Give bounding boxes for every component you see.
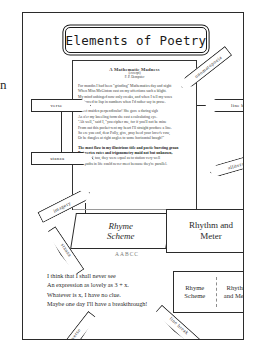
- page-title-text: Elements of Poetry: [66, 33, 207, 48]
- rhythm-meter-line-2: Meter: [189, 231, 233, 242]
- second-poem: I think that I shall never see An expres…: [47, 271, 147, 308]
- rhyme-scheme-code: AABCC: [97, 251, 157, 257]
- rhythm-meter-line-1: Rhythm and: [189, 220, 233, 231]
- worksheet-page: Elements of Poetry A Mathematic Madness …: [22, 12, 244, 340]
- rhyme-scheme-box[interactable]: Rhyme Scheme: [70, 213, 172, 249]
- callout-stanza[interactable]: stanza: [31, 152, 93, 165]
- poem-header: A Mathematic Madness (excerpt) F. P. Dem…: [73, 61, 196, 80]
- callout-verse[interactable]: verse: [31, 99, 91, 112]
- bottom-rhythm-line-1: Rhythm: [224, 284, 244, 292]
- callout-stanza-label: stanza: [50, 156, 64, 161]
- callout-alliteration[interactable]: alliteration: [208, 152, 244, 179]
- poem-line: I'm forced to lisp in numbers when I'd r…: [78, 100, 196, 105]
- leader-line-verse-v: [61, 105, 62, 153]
- callout-alliteration-label: alliteration: [227, 158, 244, 170]
- second-poem-line: An expression as lovely as 3 + x.: [47, 280, 147, 289]
- rhythm-meter-box-label: Rhythm and Meter: [189, 220, 233, 242]
- poem-line: Or he dangles at right angles to some ho…: [78, 136, 196, 141]
- bottom-rhyme-line-1: Rhyme: [184, 284, 205, 292]
- rhythm-meter-box[interactable]: Rhythm and Meter: [166, 209, 244, 253]
- callout-verse-label: verse: [50, 103, 62, 108]
- callout-verse-bottom[interactable]: verse: [56, 311, 97, 340]
- bottom-comparison-box[interactable]: Rhyme Scheme Rhythm and Meter: [173, 271, 244, 313]
- poem-stanza-1: For months I had been "grinding" Mathema…: [78, 84, 196, 106]
- bottom-rhythm-meter-cell[interactable]: Rhythm and Meter: [217, 272, 245, 312]
- poem-stanza-2: Sweet maiden perpendicular! She gave a d…: [78, 109, 196, 141]
- rhyme-scheme-line-1: Rhyme: [107, 221, 134, 231]
- second-poem-line: I think that I shall never see: [47, 271, 147, 280]
- bottom-rhythm-line-2: and Meter: [224, 292, 244, 300]
- callout-imagery-label: imagery: [52, 200, 71, 213]
- rhyme-scheme-box-label: Rhyme Scheme: [107, 221, 134, 242]
- poem-stanza-3: The most flaw in my illustrious title an…: [78, 146, 196, 168]
- rhyme-scheme-line-2: Scheme: [107, 231, 134, 241]
- poem-line: Our paths in life could never meet becau…: [78, 162, 196, 167]
- poem-author: F. P. Dempster: [73, 76, 196, 80]
- page-title: Elements of Poetry: [65, 27, 207, 53]
- leader-line-imagery: [85, 203, 86, 213]
- poem-frame: A Mathematic Madness (excerpt) F. P. Dem…: [72, 60, 197, 210]
- bottom-rhyme-scheme-cell[interactable]: Rhyme Scheme: [174, 272, 216, 312]
- bottom-rhyme-line-2: Scheme: [184, 292, 205, 300]
- callout-line-break[interactable]: line break: [205, 99, 244, 112]
- callout-line-break-bottom-label: line break: [169, 316, 190, 336]
- callout-line-break-label: line break: [231, 103, 244, 108]
- page-edge-glyph: n: [0, 78, 12, 118]
- callout-onomatopoeia-label: onomatopoeia: [194, 54, 223, 78]
- second-poem-line: Maybe one day I'll have a breakthrough!: [47, 299, 147, 308]
- callout-verse-bottom-label: verse: [70, 327, 82, 340]
- second-poem-line: Whatever is x, I have no clue.: [47, 290, 147, 299]
